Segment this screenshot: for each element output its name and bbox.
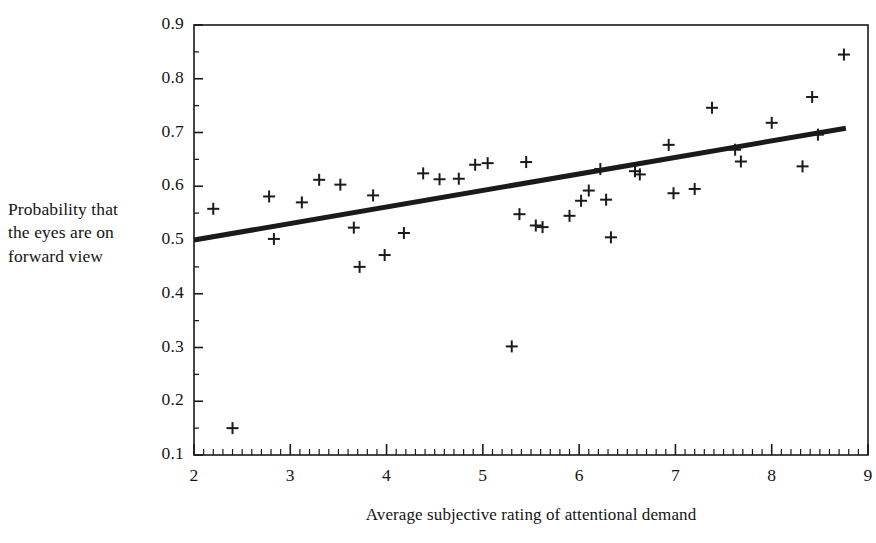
y-tick-label: 0.4 [136,282,184,303]
x-tick-label: 8 [757,465,787,486]
x-tick-label: 3 [275,465,305,486]
x-axis-ticks [194,444,868,455]
data-point-marker [469,159,481,171]
data-point-marker [530,219,542,231]
data-point-marker [313,174,325,186]
data-point-marker [600,194,612,206]
data-point-marker [583,185,595,197]
data-point-marker [689,183,701,195]
data-point-marker [513,208,525,220]
x-tick-label: 5 [468,465,498,486]
data-point-marker [663,139,675,151]
data-point-marker [564,210,576,222]
y-tick-label: 0.8 [136,67,184,88]
data-point-marker [434,173,446,185]
data-point-marker [605,231,617,243]
x-tick-label: 4 [372,465,402,486]
data-point-marker [268,233,280,245]
x-tick-label: 2 [179,465,209,486]
data-point-marker [453,173,465,185]
x-tick-label: 6 [564,465,594,486]
plot-canvas [0,0,876,543]
y-tick-label: 0.7 [136,121,184,142]
data-point-marker [227,422,239,434]
data-point-marker [207,203,219,215]
data-point-marker [506,340,518,352]
data-point-marker [668,187,680,199]
data-point-marker [806,91,818,103]
data-point-marker [379,249,391,261]
data-point-marker [263,190,275,202]
data-points [207,49,850,435]
y-tick-label: 0.3 [136,336,184,357]
x-tick-label: 9 [853,465,876,486]
y-tick-label: 0.1 [136,443,184,464]
data-point-marker [838,49,850,61]
axes-frame [194,25,868,455]
data-point-marker [537,221,549,233]
data-point-marker [482,157,494,169]
data-point-marker [334,179,346,191]
x-tick-label: 7 [660,465,690,486]
data-point-marker [367,189,379,201]
y-tick-label: 0.5 [136,228,184,249]
data-point-marker [417,167,429,179]
data-point-marker [354,261,366,273]
scatter-plot-figure: Probability that the eyes are on forward… [0,0,876,543]
y-tick-label: 0.6 [136,174,184,195]
data-point-marker [735,156,747,168]
data-point-marker [575,195,587,207]
data-point-marker [706,102,718,114]
data-point-marker [398,227,410,239]
data-point-marker [348,222,360,234]
trend-line [194,128,846,240]
data-point-marker [766,117,778,129]
y-tick-label: 0.2 [136,389,184,410]
y-tick-label: 0.9 [136,13,184,34]
data-point-marker [520,156,532,168]
data-point-marker [296,196,308,208]
data-point-marker [797,160,809,172]
